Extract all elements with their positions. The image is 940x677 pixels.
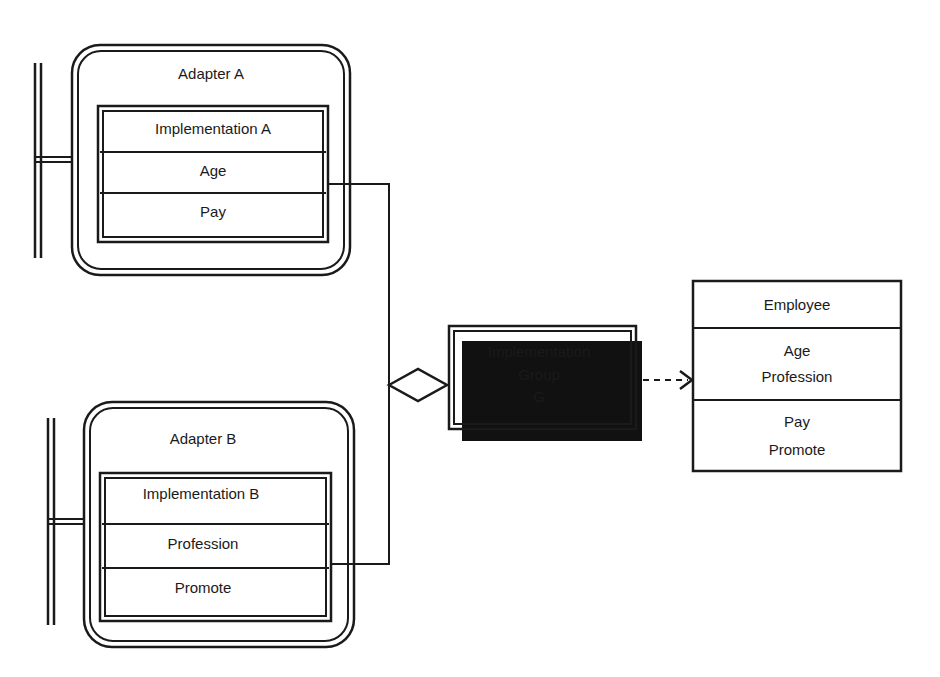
adapter-a-title: Adapter A — [178, 65, 244, 82]
aggregation-connector — [328, 184, 447, 564]
implementation-a-title: Implementation A — [155, 120, 271, 137]
adapter-b-title: Adapter B — [170, 430, 237, 447]
employee-class: Employee Age Profession Pay Promote — [693, 281, 901, 471]
aggregation-line — [328, 184, 389, 564]
dependency-arrow — [643, 371, 692, 389]
implementation-b-row-promote: Promote — [175, 579, 232, 596]
implementation-b-title: Implementation B — [143, 485, 260, 502]
group-line-2: Group — [518, 366, 560, 383]
group-line-3: G — [533, 388, 545, 405]
employee-operation-pay: Pay — [784, 413, 810, 430]
employee-title: Employee — [764, 296, 831, 313]
group-line-1: Implementation — [488, 343, 591, 360]
employee-operation-promote: Promote — [769, 441, 826, 458]
adapter-b: Adapter B Implementation B Profession Pr… — [48, 402, 354, 647]
implementation-group: Implementation Group G — [449, 326, 642, 441]
aggregation-diamond-icon — [389, 369, 447, 401]
implementation-a-row-pay: Pay — [200, 203, 226, 220]
employee-attribute-profession: Profession — [762, 368, 833, 385]
implementation-b-row-profession: Profession — [168, 535, 239, 552]
adapter-a: Adapter A Implementation A Age Pay — [35, 45, 350, 275]
implementation-a-row-age: Age — [200, 162, 227, 179]
diagram-canvas: Adapter A Implementation A Age Pay Adapt… — [0, 0, 940, 677]
employee-attribute-age: Age — [784, 342, 811, 359]
